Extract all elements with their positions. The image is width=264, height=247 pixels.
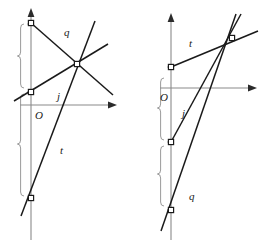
right-line-j [171,14,241,142]
left-point-intersection [74,61,79,66]
left-label-j: j [55,90,60,102]
right-label-q: q [189,190,195,202]
right-diagram-panel: t j q O [132,0,264,247]
left-point-bottom [28,195,33,200]
left-line-t [21,21,95,216]
left-label-q: q [64,26,70,38]
right-point-upper [168,64,173,69]
left-label-origin: O [35,109,43,121]
right-point-intersection [229,35,234,40]
left-x-axis-arrowhead [108,102,117,109]
left-diagram-svg: q j t O [0,0,132,247]
right-x-axis-arrowhead [248,85,257,92]
right-diagram-svg: t j q O [132,0,264,247]
right-line-q [161,14,236,231]
right-label-t: t [189,37,193,49]
left-point-lower [28,89,33,94]
figure-container: q j t O [0,0,264,247]
left-label-t: t [60,144,64,156]
right-label-j: j [180,107,185,119]
right-y-axis-arrowhead [168,13,175,22]
left-point-upper [28,20,33,25]
left-lower-brace [17,94,24,196]
left-upper-brace [17,24,24,88]
left-y-axis-arrowhead [28,8,35,17]
right-point-mid [168,139,173,144]
right-upper-brace [157,78,164,140]
left-line-q [31,23,113,95]
right-point-lower [168,207,173,212]
right-label-origin: O [160,91,168,103]
right-lower-brace [157,146,164,206]
left-diagram-panel: q j t O [0,0,132,247]
